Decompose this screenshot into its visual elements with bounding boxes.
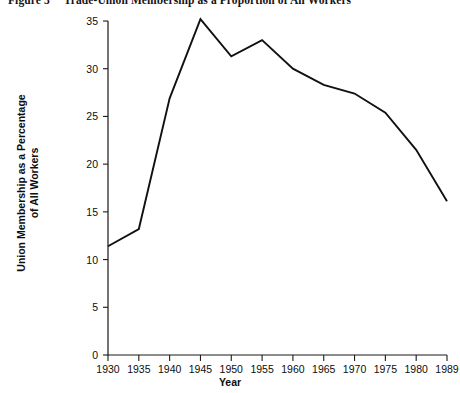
y-tick-label: 30 [86, 63, 98, 75]
data-series-line [108, 19, 447, 246]
x-tick-label: 1989 [435, 363, 459, 375]
x-tick-label: 1970 [343, 363, 367, 375]
y-tick-label: 5 [92, 301, 98, 313]
x-tick-label: 1965 [312, 363, 336, 375]
y-tick-label: 0 [92, 349, 98, 361]
x-tick-label: 1930 [96, 363, 120, 375]
figure-container: Figure 3Trade-Union Membership as a Prop… [0, 0, 460, 393]
line-chart-plot: 05101520253035 1930193519401945195019551… [0, 0, 460, 393]
x-tick-label: 1945 [189, 363, 213, 375]
x-tick-label: 1940 [158, 363, 182, 375]
y-tick-label: 25 [86, 110, 98, 122]
x-tick-label: 1935 [127, 363, 151, 375]
x-tick-label: 1980 [405, 363, 429, 375]
x-tick-label: 1975 [374, 363, 398, 375]
axis-frame [108, 21, 447, 355]
x-tick-label: 1955 [250, 363, 274, 375]
x-axis-ticks: 1930193519401945195019551960196519701975… [96, 355, 459, 375]
x-tick-label: 1960 [281, 363, 305, 375]
y-tick-label: 20 [86, 158, 98, 170]
x-tick-label: 1950 [220, 363, 244, 375]
y-axis-ticks: 05101520253035 [86, 15, 108, 361]
y-tick-label: 35 [86, 15, 98, 27]
y-tick-label: 10 [86, 254, 98, 266]
y-tick-label: 15 [86, 206, 98, 218]
